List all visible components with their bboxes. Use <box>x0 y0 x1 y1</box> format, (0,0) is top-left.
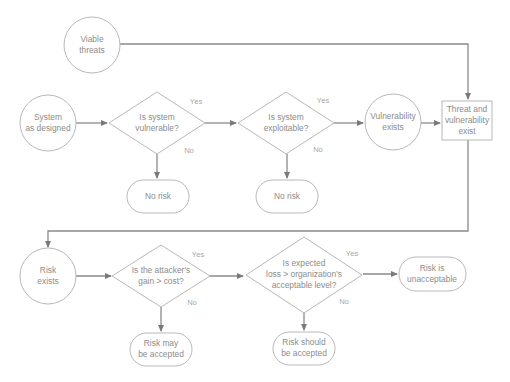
svg-text:Risk: Risk <box>40 265 57 275</box>
svg-text:loss > organization's: loss > organization's <box>266 269 342 279</box>
decision-gain-greater-than-cost: Is the attacker's gain > cost? Yes No <box>112 245 210 307</box>
label-no: No <box>187 298 197 307</box>
connectors <box>48 44 468 331</box>
svg-text:Risk may: Risk may <box>144 338 179 348</box>
node-vulnerability-exists: Vulnerability exists <box>365 94 421 150</box>
node-risk-should-be-accepted: Risk should be accepted <box>273 332 335 365</box>
node-risk-exists: Risk exists <box>20 248 76 304</box>
svg-text:Is expected: Is expected <box>283 258 326 268</box>
svg-text:unacceptable: unacceptable <box>407 274 457 284</box>
svg-text:Viable: Viable <box>80 34 103 44</box>
svg-text:No risk: No risk <box>145 191 172 201</box>
label-yes: Yes <box>317 96 330 105</box>
svg-text:Is system: Is system <box>139 112 174 122</box>
label-yes: Yes <box>190 97 203 106</box>
svg-text:exists: exists <box>37 276 58 286</box>
svg-text:threats: threats <box>79 45 105 55</box>
node-risk-may-be-accepted: Risk may be accepted <box>130 333 192 366</box>
svg-text:Threat and: Threat and <box>447 104 488 114</box>
svg-text:Is system: Is system <box>268 112 303 122</box>
svg-text:Is the attacker's: Is the attacker's <box>132 265 190 275</box>
node-viable-threats: Viable threats <box>64 17 120 73</box>
svg-text:be accepted: be accepted <box>138 349 184 359</box>
label-no: No <box>313 145 323 154</box>
decision-loss-greater-than-level: Is expected loss > organization's accept… <box>246 237 362 313</box>
decision-is-exploitable: Is system exploitable? Yes No <box>238 92 334 154</box>
svg-text:be accepted: be accepted <box>281 348 327 358</box>
label-yes: Yes <box>346 249 359 258</box>
svg-text:as designed: as designed <box>25 123 71 133</box>
svg-text:No risk: No risk <box>274 191 301 201</box>
svg-text:Risk is: Risk is <box>420 263 445 273</box>
svg-text:Risk should: Risk should <box>282 337 326 347</box>
edge-threats-to-box <box>120 44 468 99</box>
svg-text:gain > cost?: gain > cost? <box>138 276 184 286</box>
node-no-risk-2: No risk <box>256 180 318 213</box>
svg-text:exists: exists <box>382 122 403 132</box>
node-no-risk-1: No risk <box>127 180 189 213</box>
svg-text:vulnerable?: vulnerable? <box>135 123 179 133</box>
node-threat-and-vulnerability: Threat and vulnerability exist <box>442 101 492 140</box>
svg-text:exploitable?: exploitable? <box>264 123 309 133</box>
label-yes: Yes <box>192 250 205 259</box>
node-risk-unacceptable: Risk is unacceptable <box>399 257 466 291</box>
label-no: No <box>339 297 349 306</box>
node-system-as-designed: System as designed <box>20 95 76 151</box>
svg-text:vulnerability: vulnerability <box>445 115 490 125</box>
svg-text:Vulnerability: Vulnerability <box>370 111 416 121</box>
svg-text:System: System <box>34 112 62 122</box>
svg-text:acceptable level?: acceptable level? <box>272 280 337 290</box>
label-no: No <box>184 146 194 155</box>
risk-flowchart: Viable threats System as designed Is sys… <box>0 0 510 382</box>
decision-is-vulnerable: Is system vulnerable? Yes No <box>109 92 205 155</box>
svg-text:exist: exist <box>458 126 476 136</box>
